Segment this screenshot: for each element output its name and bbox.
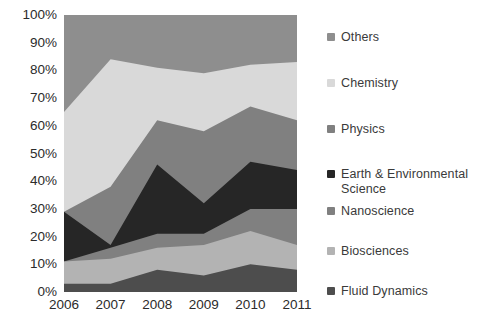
x-axis-tick-label: 2010 xyxy=(224,296,276,314)
legend-item[interactable]: Nanoscience xyxy=(327,204,493,219)
legend-swatch-icon xyxy=(327,170,335,178)
legend-swatch-icon xyxy=(327,33,335,41)
y-axis-tick-label: 30% xyxy=(2,202,57,216)
x-axis-tick-label: 2008 xyxy=(131,296,183,314)
y-axis-tick-label: 60% xyxy=(2,119,57,133)
x-axis-tick-label: 2011 xyxy=(271,296,323,314)
legend-swatch-icon xyxy=(327,207,335,215)
plot-svg xyxy=(64,15,297,292)
x-axis-tick-label: 2006 xyxy=(38,296,90,314)
y-axis-tick-label: 70% xyxy=(2,91,57,105)
legend-item-label: Earth & Environmental Science xyxy=(341,167,493,197)
legend-item[interactable]: Biosciences xyxy=(327,244,493,259)
y-axis-tick-label: 40% xyxy=(2,174,57,188)
legend-swatch-icon xyxy=(327,247,335,255)
legend-item-label: Biosciences xyxy=(341,244,409,259)
y-axis-tick-label: 20% xyxy=(2,230,57,244)
legend-item-label: Fluid Dynamics xyxy=(341,284,428,299)
legend-item[interactable]: Earth & Environmental Science xyxy=(327,167,493,197)
y-axis-tick-label: 10% xyxy=(2,258,57,272)
y-axis: 0%10%20%30%40%50%60%70%80%90%100% xyxy=(0,0,62,331)
legend-item-label: Chemistry xyxy=(341,76,398,91)
legend-item-label: Others xyxy=(341,30,379,45)
legend-item[interactable]: Others xyxy=(327,30,493,45)
y-axis-tick-label: 100% xyxy=(2,8,57,22)
x-axis-tick-label: 2007 xyxy=(85,296,137,314)
plot-area xyxy=(64,15,297,292)
legend-swatch-icon xyxy=(327,125,335,133)
x-axis: 200620072008200920102011 xyxy=(64,296,297,322)
chart-legend: OthersChemistryPhysicsEarth & Environmen… xyxy=(327,26,493,306)
stacked-area-chart-figure: 0%10%20%30%40%50%60%70%80%90%100% 200620… xyxy=(0,0,495,331)
x-axis-tick-label: 2009 xyxy=(178,296,230,314)
legend-item-label: Nanoscience xyxy=(341,204,414,219)
y-axis-tick-label: 90% xyxy=(2,36,57,50)
legend-item[interactable]: Fluid Dynamics xyxy=(327,284,493,299)
legend-item[interactable]: Chemistry xyxy=(327,76,493,91)
legend-item[interactable]: Physics xyxy=(327,122,493,137)
legend-swatch-icon xyxy=(327,287,335,295)
y-axis-tick-label: 50% xyxy=(2,147,57,161)
legend-item-label: Physics xyxy=(341,122,385,137)
legend-swatch-icon xyxy=(327,79,335,87)
y-axis-tick-label: 80% xyxy=(2,64,57,78)
